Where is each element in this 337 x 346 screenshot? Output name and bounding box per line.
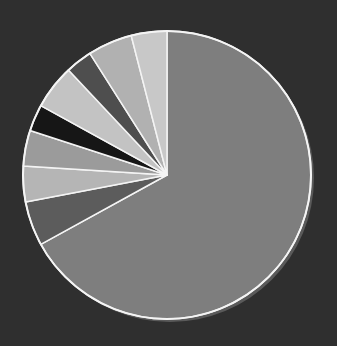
pie-slices	[23, 31, 311, 319]
pie-chart	[0, 0, 337, 346]
